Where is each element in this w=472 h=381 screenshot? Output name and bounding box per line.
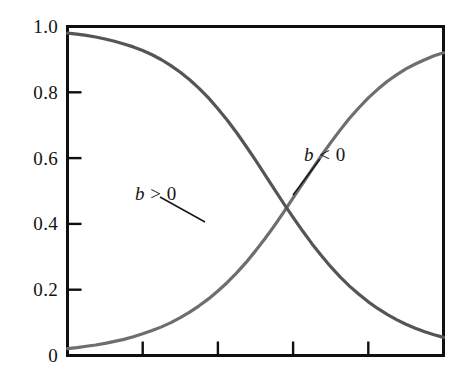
y-tick-label: 0.6 [8, 149, 58, 168]
y-tick-label: 0.8 [8, 83, 58, 102]
y-tick-label: 0.2 [8, 280, 58, 299]
annotation-variable: b [304, 144, 314, 165]
annotation-b-positive: b > 0 [135, 184, 176, 203]
y-tick-label: 1.0 [8, 17, 58, 36]
annotation-value: 0 [336, 144, 346, 165]
y-tick-label: 0.4 [8, 214, 58, 233]
annotation-value: 0 [167, 183, 177, 204]
plot-canvas [0, 0, 472, 381]
annotation-b-negative: b < 0 [304, 145, 345, 164]
chart-background [0, 0, 472, 381]
chart-figure: 00.20.40.60.81.0 b > 0b < 0 [0, 0, 472, 381]
annotation-relation: < [314, 144, 336, 165]
annotation-variable: b [135, 183, 145, 204]
annotation-relation: > [145, 183, 167, 204]
y-tick-label: 0 [8, 346, 58, 365]
